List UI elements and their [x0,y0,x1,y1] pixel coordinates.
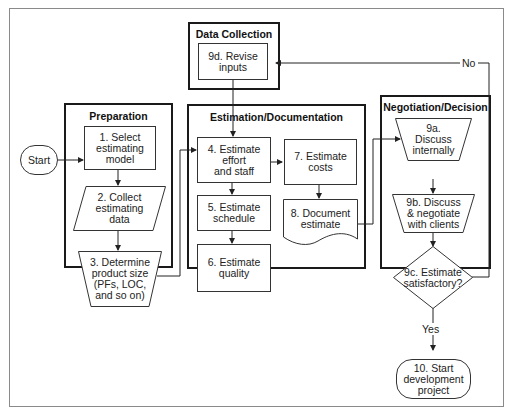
node-start-label: Start [28,155,50,166]
node-1-label: 1. Select estimating model [96,132,144,165]
node-9c-label: 9c. Estimate satisfactory? [404,267,463,289]
group-title-preparation: Preparation [66,110,171,122]
node-3-label: 3. Determine product size (PFs, LOC, and… [90,257,150,301]
node-7-label: 7. Estimate costs [294,151,347,173]
node-2-collect-estimating-data: 2. Collect estimating data [73,186,166,231]
edge-label-yes: Yes [421,323,440,335]
node-10-start-development-project: 10. Start development project [396,359,471,399]
node-1-select-estimating-model: 1. Select estimating model [84,126,156,170]
node-6-label: 6. Estimate quality [208,257,261,279]
node-4-label: 4. Estimate effort and staff [208,144,261,177]
node-9b-label: 9b. Discuss & negotiate with clients [406,197,460,230]
node-2-label: 2. Collect estimating data [96,192,144,225]
node-9d-label: 9d. Revise inputs [208,51,258,73]
group-title-estimation-documentation: Estimation/Documentation [189,111,364,123]
node-9b-discuss-negotiate-clients: 9b. Discuss & negotiate with clients [392,194,475,233]
node-9a-discuss-internally: 9a. Discuss internally [395,118,472,179]
node-5-estimate-schedule: 5. Estimate schedule [197,195,271,231]
node-6-estimate-quality: 6. Estimate quality [197,244,271,292]
node-3-determine-product-size: 3. Determine product size (PFs, LOC, and… [78,251,162,307]
group-title-data-collection: Data Collection [190,28,278,40]
node-4-estimate-effort-staff: 4. Estimate effort and staff [197,137,271,183]
node-9c-estimate-satisfactory-decision: 9c. Estimate satisfactory? [393,246,473,309]
flowchart-canvas: Data Collection Preparation Estimation/D… [0,0,515,417]
node-10-label: 10. Start development project [403,363,463,396]
group-title-negotiation-decision: Negotiation/Decision [382,101,489,113]
node-8-label: 8. Document estimate [291,208,351,230]
edge-label-no: No [461,57,476,69]
node-7-estimate-costs: 7. Estimate costs [284,139,357,185]
node-5-label: 5. Estimate schedule [208,202,261,224]
node-9d-revise-inputs: 9d. Revise inputs [198,43,268,80]
node-start: Start [20,145,58,175]
node-9a-label: 9a. Discuss internally [412,123,454,156]
node-8-document-estimate: 8. Document estimate [283,199,358,247]
